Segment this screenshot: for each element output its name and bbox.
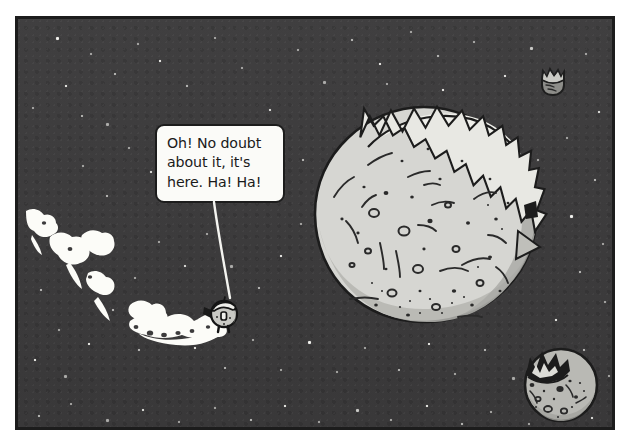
- star: [250, 419, 252, 421]
- comic-panel: Oh! No doubt about it, it's here. Ha! Ha…: [15, 16, 615, 430]
- star: [555, 319, 557, 321]
- star: [82, 165, 84, 167]
- star: [241, 67, 243, 69]
- star: [178, 421, 180, 423]
- star: [90, 53, 92, 55]
- star: [214, 37, 216, 39]
- star: [106, 123, 109, 126]
- star: [442, 89, 444, 91]
- star: [323, 81, 326, 84]
- star: [64, 375, 67, 378]
- star: [194, 347, 196, 349]
- star: [318, 421, 320, 423]
- star: [300, 223, 302, 225]
- star: [454, 373, 456, 375]
- star: [426, 405, 428, 407]
- star: [379, 63, 381, 65]
- star: [398, 369, 400, 371]
- distant-fragment: [538, 67, 568, 97]
- star: [461, 423, 463, 425]
- star: [106, 419, 109, 422]
- big-planet: [312, 101, 542, 326]
- star: [364, 347, 366, 349]
- star: [530, 47, 533, 50]
- comic-page: Oh! No doubt about it, it's here. Ha! Ha…: [0, 0, 628, 448]
- star: [336, 371, 338, 373]
- star: [608, 375, 610, 377]
- star: [602, 243, 604, 245]
- star: [252, 339, 254, 341]
- star: [428, 343, 430, 345]
- star: [512, 377, 515, 380]
- star: [437, 55, 439, 57]
- star: [280, 369, 282, 371]
- star: [214, 407, 216, 409]
- star: [566, 137, 568, 139]
- star: [34, 359, 36, 361]
- star: [594, 179, 596, 181]
- star: [579, 271, 581, 273]
- rocket-character: [202, 295, 244, 335]
- vapour-trail: [26, 205, 226, 345]
- star: [356, 409, 359, 412]
- star: [280, 255, 282, 257]
- star: [585, 53, 587, 55]
- star: [128, 147, 130, 149]
- star: [106, 195, 108, 197]
- speech-bubble-text: Oh! No doubt about it, it's here. Ha! Ha…: [167, 134, 274, 192]
- star: [38, 415, 40, 417]
- star: [230, 265, 233, 268]
- star: [138, 349, 140, 351]
- star: [142, 409, 144, 411]
- star: [297, 49, 299, 51]
- speech-bubble: Oh! No doubt about it, it's here. Ha! Ha…: [155, 124, 285, 203]
- star: [159, 60, 161, 62]
- star: [490, 411, 492, 413]
- star: [302, 159, 304, 161]
- star: [473, 41, 475, 43]
- star: [269, 109, 271, 111]
- star: [56, 37, 59, 40]
- star: [150, 171, 152, 173]
- star: [410, 31, 412, 33]
- star: [186, 85, 188, 87]
- star: [504, 75, 506, 77]
- star: [65, 85, 67, 87]
- small-moon: [518, 341, 604, 425]
- star: [137, 43, 139, 45]
- star: [284, 405, 286, 407]
- star: [604, 301, 606, 303]
- star: [81, 115, 83, 117]
- star: [70, 403, 72, 405]
- star: [308, 341, 311, 344]
- star: [598, 111, 600, 113]
- star: [258, 287, 260, 289]
- star: [224, 367, 226, 369]
- star: [32, 107, 34, 109]
- star: [570, 215, 573, 218]
- star: [351, 39, 353, 41]
- star: [484, 349, 486, 351]
- star: [390, 419, 392, 421]
- star: [114, 73, 116, 75]
- star: [386, 83, 388, 85]
